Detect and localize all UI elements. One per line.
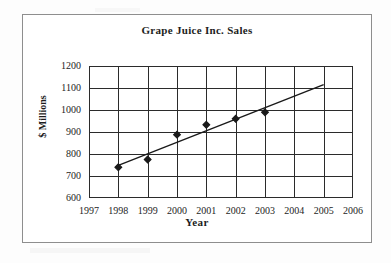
trendline bbox=[118, 85, 323, 166]
y-axis-tick-label: 700 bbox=[51, 170, 81, 181]
y-axis-title: $ Millions bbox=[37, 72, 48, 162]
data-point bbox=[203, 121, 210, 128]
scan-artifact bbox=[30, 248, 150, 253]
data-point-markers bbox=[115, 109, 268, 171]
chart-title: Grape Juice Inc. Sales bbox=[23, 24, 371, 36]
scan-artifact bbox=[95, 8, 140, 12]
y-axis-tick-label: 1100 bbox=[51, 82, 81, 93]
y-axis-tick-label: 800 bbox=[51, 148, 81, 159]
y-axis-tick-label: 1000 bbox=[51, 104, 81, 115]
grid-lines bbox=[89, 66, 353, 198]
x-axis-title: Year bbox=[23, 216, 371, 228]
chart-plot-svg bbox=[89, 66, 353, 198]
y-axis-tick-label: 1200 bbox=[51, 60, 81, 71]
data-point bbox=[144, 156, 151, 163]
scanned-page-background: Grape Juice Inc. Sales $ Millions Year 6… bbox=[0, 0, 391, 263]
data-point bbox=[262, 109, 269, 116]
chart-frame: Grape Juice Inc. Sales $ Millions Year 6… bbox=[22, 14, 372, 243]
y-axis-tick-label: 600 bbox=[51, 192, 81, 203]
plot-area bbox=[89, 66, 353, 198]
y-axis-tick-label: 900 bbox=[51, 126, 81, 137]
x-axis-tick-label: 2006 bbox=[336, 205, 370, 216]
data-point bbox=[232, 115, 239, 122]
